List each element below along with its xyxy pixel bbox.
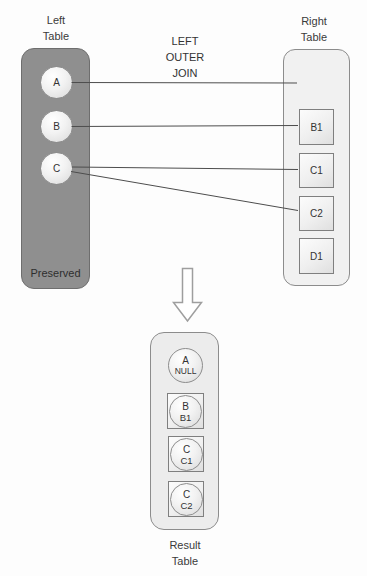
right-table: B1 C1 C2 D1 — [283, 49, 350, 286]
result-row-c2-right: C2 — [180, 500, 192, 511]
left-table-row-c: C — [40, 152, 73, 185]
join-diagram: Left Table LEFT OUTER JOIN Right Table A… — [0, 0, 367, 576]
join-label-line1: LEFT — [140, 33, 230, 49]
right-table-title: Right Table — [269, 13, 359, 45]
result-row-c1-left: C — [183, 444, 190, 455]
right-table-row-d1: D1 — [299, 238, 334, 274]
right-row-d1-label: D1 — [310, 251, 323, 262]
result-row-b-right: B1 — [180, 412, 192, 423]
left-table-title-line2: Table — [11, 28, 101, 44]
left-row-b-label: B — [53, 121, 60, 132]
join-label-line2: OUTER — [140, 49, 230, 65]
result-row-a-right: NULL — [175, 366, 197, 377]
result-table: A NULL B B1 C C1 C C2 — [150, 332, 219, 530]
result-row-c2-left: C — [183, 489, 190, 500]
left-row-c-label: C — [53, 163, 60, 174]
result-row-a-null: A NULL — [168, 348, 203, 383]
left-table-row-a: A — [40, 66, 73, 99]
right-table-title-line2: Table — [269, 29, 359, 45]
result-row-c-c2-cell: C C2 — [168, 481, 204, 517]
result-row-c1-right: C1 — [180, 455, 192, 466]
right-table-row-c2: C2 — [299, 196, 334, 231]
preserved-label: Preserved — [22, 267, 89, 279]
right-row-c1-label: C1 — [310, 165, 323, 176]
join-label-line3: JOIN — [140, 65, 230, 81]
result-row-c-c2: C C2 — [170, 483, 203, 516]
result-table-title-line1: Result — [140, 537, 230, 553]
left-table: A B C Preserved — [21, 48, 90, 289]
right-table-title-line1: Right — [269, 13, 359, 29]
result-row-c-c1-cell: C C1 — [168, 436, 204, 472]
result-row-b-b1: B B1 — [169, 395, 202, 428]
left-table-title: Left Table — [11, 12, 101, 44]
left-row-a-label: A — [53, 77, 60, 88]
right-table-row-b1: B1 — [299, 109, 334, 145]
connection-line-c-c2 — [71, 172, 298, 211]
result-row-b-b1-cell: B B1 — [167, 393, 204, 429]
join-type-label: LEFT OUTER JOIN — [140, 33, 230, 81]
result-row-c-c1: C C1 — [170, 438, 203, 471]
left-table-row-b: B — [40, 110, 73, 143]
right-row-c2-label: C2 — [310, 208, 323, 219]
connection-line-a-nomatch — [72, 83, 298, 84]
result-row-b-left: B — [182, 401, 189, 412]
left-table-title-line1: Left — [11, 12, 101, 28]
connection-line-b-b1 — [72, 126, 299, 127]
result-row-a-left: A — [182, 355, 189, 366]
result-table-title: Result Table — [140, 537, 230, 569]
right-table-row-c1: C1 — [299, 153, 334, 188]
result-table-title-line2: Table — [140, 553, 230, 569]
connection-line-c-c1 — [72, 167, 298, 170]
right-row-b1-label: B1 — [310, 122, 322, 133]
down-arrow-icon — [174, 269, 202, 322]
